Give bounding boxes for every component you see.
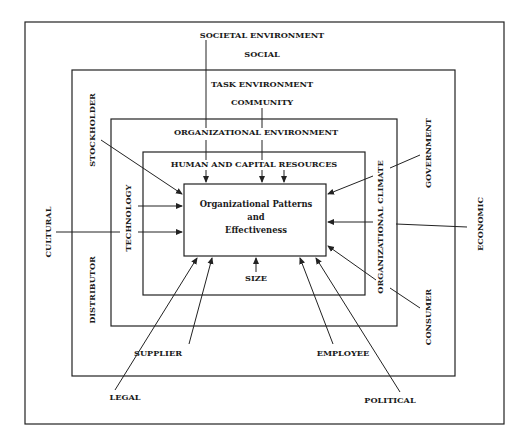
technology-label: TECHNOLOGY — [123, 184, 133, 251]
task-environment-title: TASK ENVIRONMENT — [211, 79, 314, 89]
core-line-3: Effectiveness — [225, 225, 287, 235]
legal-arrow — [115, 258, 197, 390]
organizational-environment-title: ORGANIZATIONAL ENVIRONMENT — [174, 127, 339, 137]
distributor-label: DISTRIBUTOR — [87, 256, 97, 324]
stockholder-label: STOCKHOLDER — [87, 93, 97, 167]
size-label: SIZE — [245, 273, 267, 283]
core-line-1: Organizational Patterns — [200, 199, 313, 209]
community-label: COMMUNITY — [231, 97, 293, 107]
employee-arrow — [300, 258, 333, 344]
government-arrow-b — [328, 176, 373, 194]
economic-arrow-a — [396, 224, 467, 227]
supplier-arrow — [189, 258, 212, 344]
consumer-label: CONSUMER — [423, 289, 433, 345]
political-arrow — [316, 258, 400, 392]
organizational-environment-diagram: SOCIETAL ENVIRONMENT SOCIAL TASK ENVIRON… — [0, 0, 528, 441]
government-arrow-a — [390, 155, 420, 168]
core-line-2: and — [247, 212, 265, 222]
cultural-label: CULTURAL — [43, 206, 53, 257]
societal-environment-title: SOCIETAL ENVIRONMENT — [200, 30, 325, 40]
economic-label: ECONOMIC — [475, 197, 485, 251]
legal-label: LEGAL — [109, 392, 140, 402]
political-label: POLITICAL — [364, 395, 416, 405]
employee-label: EMPLOYEE — [317, 348, 370, 358]
social-label: SOCIAL — [244, 49, 280, 59]
consumer-arrow-a — [390, 288, 420, 308]
consumer-arrow-b — [328, 246, 376, 280]
resources-title: HUMAN AND CAPITAL RESOURCES — [171, 159, 338, 169]
supplier-label: SUPPLIER — [134, 348, 182, 358]
organizational-climate-label: ORGANIZATIONAL CLIMATE — [375, 160, 385, 293]
government-label: GOVERNMENT — [423, 117, 433, 188]
